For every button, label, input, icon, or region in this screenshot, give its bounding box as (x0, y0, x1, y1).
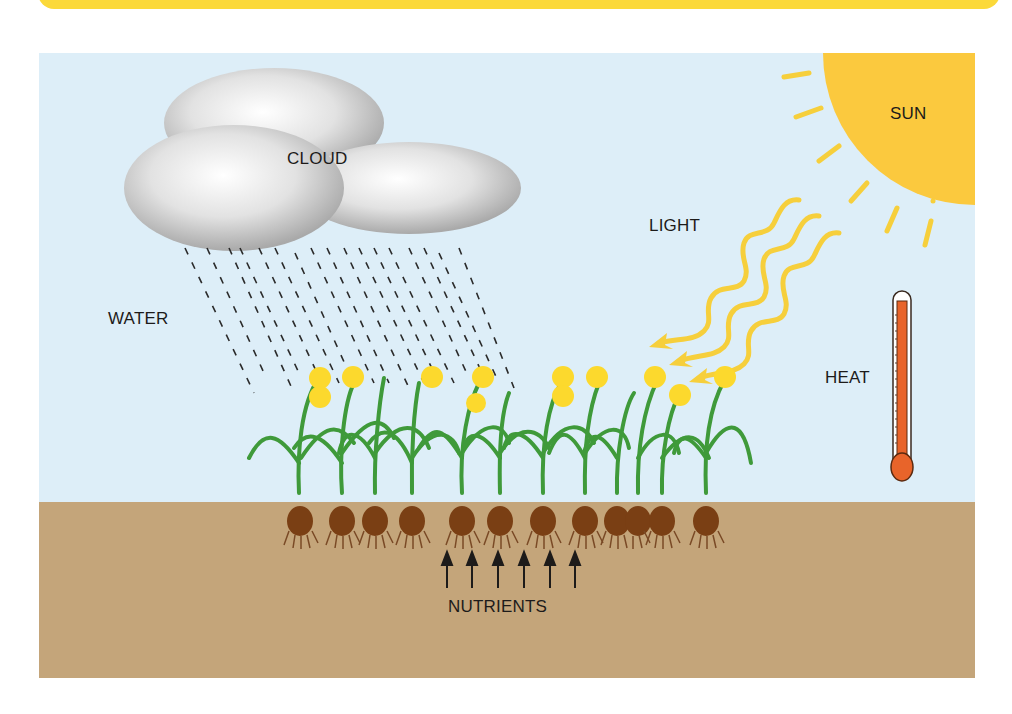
sun-label: SUN (890, 104, 927, 124)
plants-icon (249, 366, 751, 549)
title-banner (38, 0, 1000, 9)
heat-label: HEAT (825, 368, 870, 388)
diagram-illustration (39, 53, 975, 678)
nutrients-label: NUTRIENTS (448, 597, 547, 617)
nutrient-arrows-icon (442, 552, 580, 588)
diagram-panel: CLOUD SUN LIGHT WATER HEAT NUTRIENTS (39, 53, 975, 678)
water-label: WATER (108, 309, 169, 329)
thermometer-icon (891, 291, 913, 481)
light-label: LIGHT (649, 216, 700, 236)
cloud-label: CLOUD (287, 149, 348, 169)
